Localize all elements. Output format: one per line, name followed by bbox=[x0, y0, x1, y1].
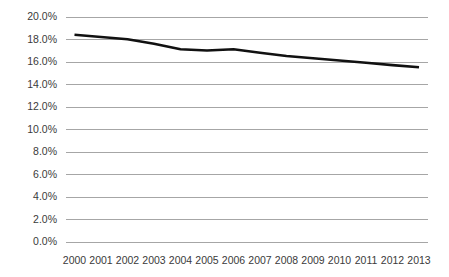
x-tick-label: 2005 bbox=[195, 254, 219, 266]
x-tick-label: 2000 bbox=[63, 254, 87, 266]
y-tick-label: 2.0% bbox=[33, 213, 57, 225]
y-tick-label: 12.0% bbox=[27, 100, 57, 112]
x-tick-label: 2011 bbox=[355, 254, 378, 266]
chart-background bbox=[0, 0, 449, 277]
chart-canvas: 0.0%2.0%4.0%6.0%8.0%10.0%12.0%14.0%16.0%… bbox=[0, 0, 449, 277]
x-tick-label: 2013 bbox=[407, 254, 431, 266]
x-tick-label: 2002 bbox=[116, 254, 140, 266]
y-tick-label: 0.0% bbox=[33, 235, 57, 247]
x-tick-label: 2003 bbox=[142, 254, 166, 266]
x-tick-label: 2009 bbox=[301, 254, 325, 266]
x-tick-label: 2001 bbox=[89, 254, 113, 266]
y-tick-label: 16.0% bbox=[27, 55, 57, 67]
line-chart: 0.0%2.0%4.0%6.0%8.0%10.0%12.0%14.0%16.0%… bbox=[0, 0, 449, 277]
x-tick-label: 2010 bbox=[328, 254, 352, 266]
x-tick-label: 2006 bbox=[222, 254, 246, 266]
y-tick-label: 18.0% bbox=[27, 33, 57, 45]
x-tick-label: 2008 bbox=[275, 254, 299, 266]
x-tick-label: 2007 bbox=[248, 254, 272, 266]
x-tick-label: 2004 bbox=[169, 254, 193, 266]
y-tick-label: 4.0% bbox=[33, 190, 57, 202]
y-tick-label: 14.0% bbox=[27, 78, 57, 90]
y-tick-label: 8.0% bbox=[33, 145, 57, 157]
y-tick-label: 20.0% bbox=[27, 10, 57, 22]
y-tick-label: 10.0% bbox=[27, 123, 57, 135]
y-tick-label: 6.0% bbox=[33, 168, 57, 180]
x-tick-label: 2012 bbox=[381, 254, 405, 266]
